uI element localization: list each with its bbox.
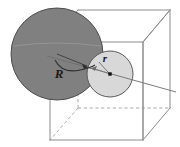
cube-edge-diagonal-top-right-overlay	[143, 10, 170, 42]
cube-hidden-edge-bottom-left	[50, 108, 78, 140]
cube-front-edges-overlay	[143, 10, 170, 140]
geometry-diagram: R r	[0, 0, 180, 147]
figure-container: R r	[0, 0, 180, 147]
large-radius-label: R	[54, 66, 64, 81]
small-radius-label: r	[103, 52, 108, 64]
small-sphere-center-dot	[108, 72, 111, 75]
cube-edge-diagonal-bottom-right	[143, 108, 170, 140]
